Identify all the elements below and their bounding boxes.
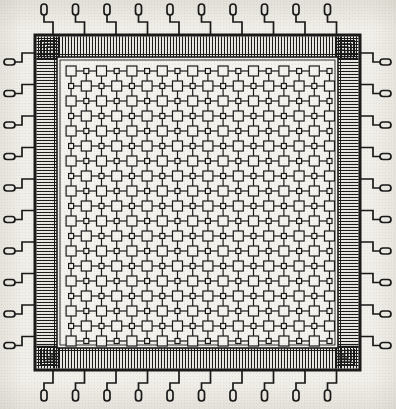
cell-large	[309, 156, 319, 166]
cell-large	[97, 66, 107, 76]
cell-small	[221, 174, 226, 179]
cell-small	[281, 144, 286, 149]
cell-small	[236, 279, 241, 284]
cell-large	[97, 306, 107, 316]
cell-large	[127, 276, 137, 286]
cell-large	[157, 126, 167, 136]
cell-small	[129, 144, 134, 149]
cell-small	[205, 279, 210, 284]
cell-large	[97, 216, 107, 226]
cell-small	[266, 249, 271, 254]
cell-large	[127, 216, 137, 226]
cell-large	[294, 321, 304, 331]
cell-small	[175, 219, 180, 224]
cell-large	[309, 246, 319, 256]
cell-small	[69, 84, 74, 89]
cell-small	[160, 234, 165, 239]
cell-small	[297, 129, 302, 134]
cell-large	[173, 111, 183, 121]
cell-small	[312, 114, 317, 119]
cell-small	[145, 99, 150, 104]
cell-small	[236, 339, 241, 344]
cell-small	[205, 219, 210, 224]
cell-small	[114, 129, 119, 134]
cell-small	[190, 324, 195, 329]
cell-large	[309, 306, 319, 316]
cell-small	[84, 339, 89, 344]
cell-large	[309, 96, 319, 106]
cell-large	[127, 186, 137, 196]
cell-large	[294, 141, 304, 151]
cell-large	[142, 231, 152, 241]
cell-large	[112, 291, 122, 301]
cell-large	[264, 261, 274, 271]
cell-small	[251, 144, 256, 149]
cell-large	[81, 291, 91, 301]
cell-small	[129, 264, 134, 269]
cell-large	[279, 186, 289, 196]
cell-small	[297, 99, 302, 104]
cell-large	[218, 96, 228, 106]
cell-large	[188, 246, 198, 256]
cell-large	[249, 156, 259, 166]
cell-small	[251, 84, 256, 89]
cell-small	[160, 144, 165, 149]
cell-small	[312, 174, 317, 179]
cell-large	[112, 201, 122, 211]
cell-small	[266, 189, 271, 194]
cell-small	[114, 249, 119, 254]
cell-large	[249, 66, 259, 76]
cell-large	[157, 186, 167, 196]
cell-small	[327, 309, 332, 314]
cell-small	[312, 234, 317, 239]
cell-small	[281, 234, 286, 239]
cell-small	[114, 279, 119, 284]
cell-large	[173, 81, 183, 91]
cell-small	[160, 114, 165, 119]
cell-large	[309, 336, 319, 346]
cell-large	[309, 126, 319, 136]
cell-large	[97, 186, 107, 196]
cell-small	[205, 69, 210, 74]
cell-large	[142, 111, 152, 121]
cell-large	[188, 216, 198, 226]
cell-small	[297, 279, 302, 284]
cell-large	[127, 126, 137, 136]
cell-large	[233, 231, 243, 241]
cell-large	[66, 186, 76, 196]
cell-large	[203, 261, 213, 271]
cell-small	[69, 264, 74, 269]
cell-small	[99, 174, 104, 179]
cell-small	[84, 69, 89, 74]
cell-large	[66, 96, 76, 106]
cell-large	[264, 201, 274, 211]
cell-large	[218, 186, 228, 196]
cell-small	[327, 219, 332, 224]
cell-small	[160, 204, 165, 209]
cell-large	[279, 156, 289, 166]
cell-small	[236, 249, 241, 254]
cell-small	[205, 309, 210, 314]
cell-large	[157, 276, 167, 286]
cell-small	[281, 324, 286, 329]
cell-large	[157, 336, 167, 346]
cell-small	[221, 234, 226, 239]
cell-small	[281, 114, 286, 119]
cell-large	[188, 276, 198, 286]
cell-small	[114, 309, 119, 314]
cell-large	[173, 201, 183, 211]
cell-large	[97, 96, 107, 106]
cell-large	[188, 186, 198, 196]
cell-small	[251, 174, 256, 179]
cell-small	[175, 69, 180, 74]
cell-small	[236, 99, 241, 104]
cell-small	[297, 69, 302, 74]
cell-small	[114, 159, 119, 164]
cell-large	[188, 126, 198, 136]
cell-large	[294, 291, 304, 301]
cell-large	[81, 261, 91, 271]
cell-large	[218, 306, 228, 316]
cell-small	[84, 249, 89, 254]
cell-small	[266, 309, 271, 314]
cell-small	[205, 189, 210, 194]
